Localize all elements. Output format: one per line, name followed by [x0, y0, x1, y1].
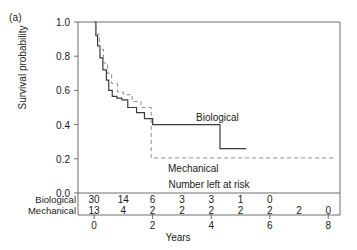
- survival-curve-mechanical: [94, 22, 336, 158]
- x-tick-label: 8: [326, 220, 332, 231]
- y-tick-label: 0.6: [40, 85, 70, 96]
- curves-layer: [94, 22, 336, 158]
- risk-cell: 2: [208, 204, 214, 215]
- risk-cell: 2: [150, 204, 156, 215]
- risk-cell: 2: [296, 204, 302, 215]
- y-tick-label: 0.8: [40, 51, 70, 62]
- risk-cell: 6: [150, 193, 156, 204]
- risk-row-label-mechanical: Mechanical: [2, 204, 76, 215]
- risk-cell: 3: [208, 193, 214, 204]
- risk-cell: 2: [179, 204, 185, 215]
- risk-cell: 30: [89, 193, 100, 204]
- risk-cell: 13: [89, 204, 100, 215]
- y-tick-label: 0.2: [40, 153, 70, 164]
- x-tick-label: 0: [91, 220, 97, 231]
- survival-curve-biological: [94, 22, 246, 149]
- risk-table-title: Number left at risk: [168, 179, 249, 190]
- risk-cell: 2: [267, 204, 273, 215]
- risk-cell: 1: [238, 193, 244, 204]
- risk-cell: 14: [118, 193, 129, 204]
- x-tick-label: 4: [208, 220, 214, 231]
- x-tick-label: 2: [150, 220, 156, 231]
- y-tick-label: 1.0: [40, 17, 70, 28]
- curve-label-biological: Biological: [196, 112, 239, 123]
- x-tick-label: 6: [267, 220, 273, 231]
- risk-cell: 3: [179, 193, 185, 204]
- y-tick-label: 0.4: [40, 119, 70, 130]
- risk-cell: 2: [238, 204, 244, 215]
- risk-cell: 0: [267, 193, 273, 204]
- survival-curve-figure: (a) Survival probability Years 0.00.20.4…: [0, 0, 357, 250]
- risk-cell: 0: [326, 204, 332, 215]
- curve-label-mechanical: Mechanical: [168, 163, 219, 174]
- risk-row-label-biological: Biological: [2, 193, 76, 204]
- risk-cell: 4: [121, 204, 127, 215]
